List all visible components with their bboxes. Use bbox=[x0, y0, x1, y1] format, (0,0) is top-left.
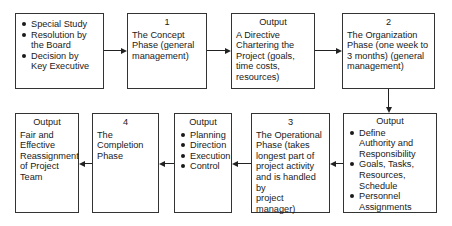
phase-number: 3 bbox=[256, 117, 325, 128]
output-header: Output bbox=[179, 117, 227, 128]
organization-output-box: Output Define Authority and Responsibili… bbox=[343, 113, 437, 213]
arrowhead-icon bbox=[159, 161, 165, 167]
output-list: Define Authority and Responsibility Goal… bbox=[348, 128, 432, 213]
list-item: Execution bbox=[179, 151, 227, 162]
list-item: Define Authority and Responsibility bbox=[348, 128, 432, 160]
arrow-output-to-completion bbox=[165, 163, 174, 164]
arrow-organization-to-output bbox=[388, 89, 389, 107]
list-item: Resolution by the Board bbox=[20, 30, 99, 51]
arrowhead-icon bbox=[225, 48, 231, 54]
organization-phase-box: 2 The Organization Phase (one week to 3 … bbox=[342, 13, 435, 89]
arrow-operational-to-output bbox=[238, 163, 251, 164]
concept-phase-box: 1 The Concept Phase (general management) bbox=[127, 13, 207, 89]
list-item: Planning bbox=[179, 130, 227, 141]
arrowhead-icon bbox=[330, 161, 336, 167]
output-list: Planning Direction Execution Control bbox=[179, 130, 227, 172]
initiation-box: Special Study Resolution by the Board De… bbox=[15, 13, 104, 89]
list-item: Decision by Key Executive bbox=[20, 51, 99, 72]
list-item: Goals, Tasks, Resources, Schedule bbox=[348, 159, 432, 191]
list-item: Personnel Assignments bbox=[348, 191, 432, 212]
arrowhead-icon bbox=[79, 161, 85, 167]
arrow-completion-to-reassignment bbox=[85, 163, 92, 164]
output-text: Fair and Effective Reassignment of Proje… bbox=[20, 130, 74, 183]
phase-text: The Operational Phase (takes longest par… bbox=[256, 130, 325, 215]
arrow-directive-to-organization bbox=[315, 50, 336, 51]
arrowhead-icon bbox=[336, 48, 342, 54]
operational-phase-box: 3 The Operational Phase (takes longest p… bbox=[251, 113, 330, 213]
arrow-initiation-to-concept bbox=[104, 50, 121, 51]
list-item: Special Study bbox=[20, 19, 99, 30]
phase-number: 1 bbox=[132, 17, 202, 28]
phase-text: The Concept Phase (general management) bbox=[132, 30, 202, 62]
operational-output-box: Output Planning Direction Execution Cont… bbox=[174, 113, 232, 213]
list-item: Control bbox=[179, 161, 227, 172]
output-header: Output bbox=[20, 117, 74, 128]
list-item: Direction bbox=[179, 140, 227, 151]
output-header: Output bbox=[236, 17, 310, 28]
arrow-output-to-operational bbox=[336, 163, 343, 164]
directive-output-box: Output A Directive Chartering the Projec… bbox=[231, 13, 315, 89]
arrow-concept-to-directive bbox=[207, 50, 225, 51]
phase-text: The Completion Phase bbox=[97, 130, 154, 162]
completion-phase-box: 4 The Completion Phase bbox=[92, 113, 159, 213]
initiation-list: Special Study Resolution by the Board De… bbox=[20, 19, 99, 72]
arrowhead-icon bbox=[121, 48, 127, 54]
reassignment-output-box: Output Fair and Effective Reassignment o… bbox=[15, 113, 79, 213]
output-header: Output bbox=[348, 116, 432, 127]
output-text: A Directive Chartering the Project (goal… bbox=[236, 30, 310, 83]
phase-number: 2 bbox=[347, 17, 430, 28]
phase-text: The Organization Phase (one week to 3 mo… bbox=[347, 30, 430, 72]
arrowhead-icon bbox=[232, 161, 238, 167]
phase-number: 4 bbox=[97, 117, 154, 128]
